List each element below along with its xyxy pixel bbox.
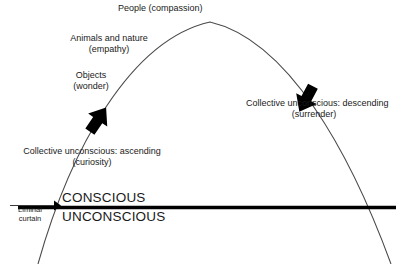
ascending-block-arrow bbox=[80, 101, 115, 138]
label-ascending-line1: Collective unconscious: ascending bbox=[14, 146, 170, 157]
label-ascending-line2: (curiosity) bbox=[14, 157, 170, 168]
label-animals-line2: (empathy) bbox=[55, 44, 163, 55]
label-conscious: CONSCIOUS bbox=[62, 190, 146, 206]
label-objects-line2: (wonder) bbox=[58, 81, 124, 92]
label-collective-unconscious-ascending: Collective unconscious: ascending (curio… bbox=[14, 146, 170, 167]
label-people-compassion: People (compassion) bbox=[118, 3, 203, 14]
diagram-canvas: People (compassion) Animals and nature (… bbox=[0, 0, 406, 264]
label-liminal-curtain: Liminal curtain bbox=[8, 205, 52, 224]
label-unconscious: UNCONSCIOUS bbox=[62, 209, 165, 225]
consciousness-arc-curve bbox=[38, 22, 391, 264]
label-objects-line1: Objects bbox=[58, 70, 124, 81]
label-liminal-line1: Liminal bbox=[8, 205, 52, 214]
label-descending-line1: Collective unconscious: descending bbox=[246, 98, 382, 109]
label-animals-line1: Animals and nature bbox=[55, 33, 163, 44]
label-collective-unconscious-descending: Collective unconscious: descending (surr… bbox=[246, 98, 382, 119]
label-descending-line2: (surrender) bbox=[246, 109, 382, 120]
label-objects-wonder: Objects (wonder) bbox=[58, 70, 124, 91]
label-liminal-line2: curtain bbox=[8, 214, 52, 223]
label-animals-and-nature: Animals and nature (empathy) bbox=[55, 33, 163, 54]
